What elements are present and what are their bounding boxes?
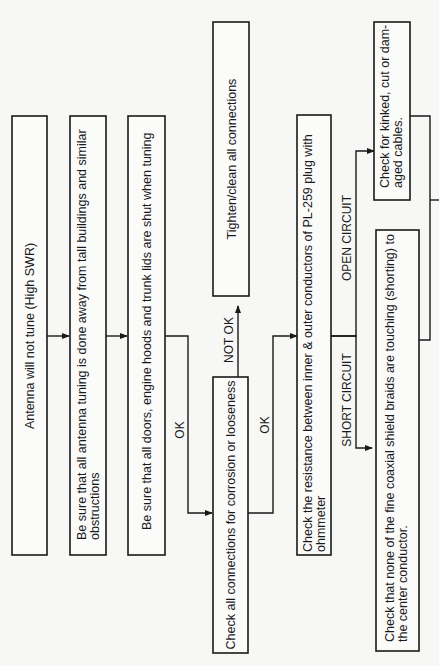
node-doors: Be sure that all doors, engine hoods and… [128,116,165,555]
edge-label-ok-1: OK [173,421,187,438]
node-check-connections-text: Check all connections for corrosion or l… [224,381,238,650]
node-tighten: Tighten/clean all connections [213,22,249,296]
edge-label-open-circuit: OPEN CIRCUIT [340,194,354,281]
node-resistance: Check the resistance between inner & out… [297,115,331,555]
edge-label-not-ok: NOT OK [222,317,236,363]
node-start-text: Antenna will not tune (High SWR) [23,243,37,429]
node-obstructions: Be sure that all antenna tuning is done … [70,116,106,555]
edge-check-connections-to-resistance [248,336,297,513]
node-doors-text: Be sure that all doors, engine hoods and… [140,132,154,530]
node-cables: Check for kinked, cut or dam- aged cable… [374,21,410,200]
node-start: Antenna will not tune (High SWR) [12,116,47,555]
node-check-connections: Check all connections for corrosion or l… [213,377,248,653]
edge-label-ok-2: OK [258,416,272,433]
node-tighten-text: Tighten/clean all connections [225,79,239,240]
flowchart: Antenna will not tune (High SWR) Be sure… [0,0,439,666]
node-shield-braids: Check that none of the fine coaxial shie… [376,230,419,651]
edge-label-short-circuit: SHORT CIRCUIT [340,353,354,447]
